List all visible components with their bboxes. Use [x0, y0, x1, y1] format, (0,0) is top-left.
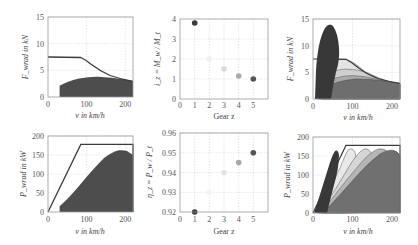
panel-e-efficiency: 0.92 0.93 0.94 0.95 0.96 0 1 2 3 4 5 Gea…: [145, 129, 268, 236]
xtick: 200: [386, 215, 398, 224]
panel-c-traction-per-gear: 0 5 10 15 0 100 200 v in km/h F_wrad in …: [286, 15, 400, 122]
ytick: 5: [40, 66, 44, 75]
xtick: 100: [347, 215, 359, 224]
panel-d-ylabel: P_wrad in kW: [19, 150, 28, 198]
ytick: 5: [305, 68, 309, 77]
panel-e-xlabel: Gear z: [213, 227, 235, 236]
xtick: 1: [193, 101, 197, 110]
panel-c-yticks: 0 5 10 15: [301, 15, 309, 104]
xtick: 4: [237, 215, 241, 224]
panel-a-yticks: 0 5 10 15: [36, 13, 44, 102]
panel-e-yticks: 0.92 0.93 0.94 0.95 0.96: [162, 129, 176, 217]
panel-d-xticks: 0 100 200: [46, 215, 131, 224]
ytick: 200: [297, 133, 309, 142]
ytick: 50: [36, 189, 44, 198]
panel-b-grid: [180, 19, 268, 99]
ytick: 15: [301, 15, 309, 24]
ytick: 0.94: [162, 169, 176, 178]
ytick: 0.92: [162, 208, 176, 217]
panel-f-power-per-gear: 0 50 100 150 200 0 100 200 v in km/h P_w…: [283, 133, 400, 236]
panel-b-yticks: 0 1 2 3 4: [172, 15, 176, 104]
ytick: 0: [40, 93, 44, 102]
panel-e-xticks: 0 1 2 3 4 5: [178, 215, 255, 224]
panel-d-area: [60, 150, 133, 212]
xtick: 5: [251, 101, 255, 110]
panel-f-ylabel: P_wrad in kW: [283, 151, 292, 199]
panel-c-xticks: 0 100 200: [311, 102, 398, 111]
xtick: 0: [46, 100, 50, 109]
point-gear-4: [236, 160, 242, 166]
figure-canvas: 0 5 10 15 0 100 200 v in km/h F_wrad in …: [0, 0, 418, 245]
panel-d-yticks: 0 50 100 150 200: [32, 132, 44, 217]
xtick: 200: [119, 215, 131, 224]
ytick: 100: [32, 170, 44, 179]
xtick: 100: [81, 100, 93, 109]
panel-d-xlabel: v in km/h: [75, 227, 104, 236]
panel-f-xticks: 0 100 200: [311, 215, 398, 224]
xtick: 0: [311, 102, 315, 111]
panel-e-points: [192, 150, 256, 215]
xtick: 2: [207, 215, 211, 224]
point-gear-1: [192, 20, 198, 26]
point-gear-3: [221, 170, 227, 176]
xtick: 100: [347, 102, 359, 111]
point-gear-5: [251, 150, 257, 156]
point-gear-5: [251, 76, 257, 82]
xtick: 0: [178, 101, 182, 110]
ytick: 10: [36, 40, 44, 49]
ytick: 15: [36, 13, 44, 22]
panel-d-power: 0 50 100 150 200 0 100 200 v in km/h P_w…: [19, 132, 133, 236]
xtick: 0: [178, 215, 182, 224]
ytick: 150: [297, 152, 309, 161]
point-gear-3: [221, 66, 227, 72]
ytick: 0: [305, 95, 309, 104]
panel-f-yticks: 0 50 100 150 200: [297, 133, 309, 218]
xtick: 5: [251, 215, 255, 224]
ytick: 4: [172, 15, 176, 24]
ytick: 2: [172, 55, 176, 64]
panel-a-xlabel: v in km/h: [75, 111, 104, 120]
xtick: 3: [222, 215, 226, 224]
panel-b-xticks: 0 1 2 3 4 5: [178, 101, 255, 110]
xtick: 200: [119, 100, 131, 109]
ytick: 0: [40, 208, 44, 217]
xtick: 1: [193, 215, 197, 224]
ytick: 3: [172, 35, 176, 44]
panel-a-ylabel: F_wrad in kN: [21, 34, 30, 80]
xtick: 0: [46, 215, 50, 224]
xtick: 100: [81, 215, 93, 224]
panel-b-ylabel: i_z = M_w / M_t: [153, 31, 162, 86]
panel-a-xticks: 0 100 200: [46, 100, 131, 109]
ytick: 200: [32, 132, 44, 141]
panel-e-ylabel: η_z = P_w / P_t: [145, 145, 154, 198]
ytick: 0: [172, 95, 176, 104]
ytick: 150: [32, 151, 44, 160]
ytick: 0.96: [162, 129, 176, 138]
panel-c-ylabel: F_wrad in kN: [286, 36, 295, 82]
panel-c-xlabel: v in km/h: [343, 113, 372, 122]
panel-a-traction-force: 0 5 10 15 0 100 200 v in km/h F_wrad in …: [21, 13, 133, 120]
point-gear-2: [207, 56, 213, 62]
xtick: 2: [207, 101, 211, 110]
ytick: 0.95: [162, 149, 176, 158]
panel-b-xlabel: Gear z: [213, 112, 235, 121]
ytick: 0.93: [162, 188, 176, 197]
panel-f-xlabel: v in km/h: [343, 227, 372, 236]
panel-b-gear-ratio: 0 1 2 3 4 0 1 2 3 4 5 Gear z i_z = M_w /…: [153, 15, 268, 121]
ytick: 50: [301, 190, 309, 199]
point-gear-4: [236, 73, 242, 79]
ytick: 1: [172, 75, 176, 84]
xtick: 4: [237, 101, 241, 110]
point-gear-2: [207, 190, 213, 196]
xtick: 3: [222, 101, 226, 110]
xtick: 200: [386, 102, 398, 111]
ytick: 10: [301, 42, 309, 51]
xtick: 0: [311, 215, 315, 224]
ytick: 100: [297, 171, 309, 180]
ytick: 0: [305, 209, 309, 218]
